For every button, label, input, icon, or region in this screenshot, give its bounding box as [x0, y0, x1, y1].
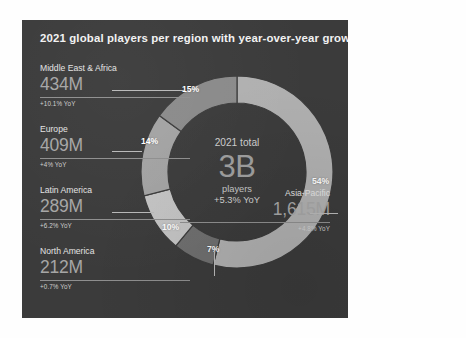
region-name: North America [40, 246, 190, 257]
region-label-north-america: North America 212M +0.7% YoY [40, 246, 190, 291]
region-name: Middle East & Africa [40, 63, 190, 74]
region-rule [40, 280, 190, 281]
region-name: Europe [40, 124, 190, 135]
region-name: Asia-Pacific [180, 188, 330, 199]
region-rule [40, 158, 190, 159]
region-growth: +4.8% YoY [180, 225, 330, 233]
region-value: 434M [40, 74, 190, 95]
region-value: 409M [40, 135, 190, 156]
leader-line-middle-east-africa [112, 90, 184, 91]
region-growth: +6.2% YoY [40, 222, 190, 230]
region-label-asia-pacific: Asia-Pacific 1,615M +4.8% YoY [180, 188, 330, 233]
donut-segment-asia-pacific [213, 76, 333, 268]
leader-line-europe [112, 151, 142, 152]
region-growth: +10.1% YoY [40, 100, 190, 108]
region-value: 212M [40, 257, 190, 278]
region-label-middle-east-africa: Middle East & Africa 434M +10.1% YoY [40, 63, 190, 108]
leader-line-asia-pacific [310, 213, 338, 214]
chart-panel: 2021 global players per region with year… [22, 20, 348, 318]
page-background: 2021 global players per region with year… [0, 0, 466, 338]
region-growth: +4% YoY [40, 161, 190, 169]
leader-line-north-america-vertical [214, 252, 215, 276]
region-rule [40, 97, 190, 98]
region-value: 289M [40, 196, 190, 217]
chart-title: 2021 global players per region with year… [40, 32, 348, 44]
region-name: Latin America [40, 185, 190, 196]
region-value: 1,615M [180, 199, 330, 220]
region-growth: +0.7% YoY [40, 283, 190, 291]
segment-percent-asia-pacific: 54% [312, 176, 329, 186]
region-rule [180, 222, 330, 223]
region-label-europe: Europe 409M +4% YoY [40, 124, 190, 169]
leader-line-latin-america [112, 212, 154, 213]
region-rule [40, 219, 190, 220]
region-label-latin-america: Latin America 289M +6.2% YoY [40, 185, 190, 230]
